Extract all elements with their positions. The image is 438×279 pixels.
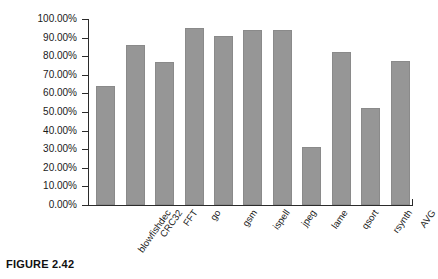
y-axis-tick-label: 40.00%	[7, 126, 77, 136]
y-axis-tick-label: 10.00%	[7, 181, 77, 191]
bar	[243, 30, 262, 205]
x-axis-tick-label: rsynth	[391, 208, 414, 235]
bar	[361, 108, 380, 205]
y-axis-tick-label: 0.00%	[7, 200, 77, 210]
x-axis-line	[88, 205, 413, 206]
bar	[185, 28, 204, 205]
bar	[96, 86, 115, 205]
bar	[273, 30, 292, 205]
y-axis-tick-label: 100.00%	[7, 14, 77, 24]
y-axis-tick-label: 20.00%	[7, 163, 77, 173]
y-axis-tick-label: 80.00%	[7, 51, 77, 61]
bar	[155, 62, 174, 205]
x-axis-tick-label: qsort	[360, 208, 380, 231]
bar	[214, 36, 233, 205]
x-axis-end-tick	[412, 199, 413, 206]
x-axis-tick-label: jpeg	[300, 208, 318, 228]
bar-chart: 0.00%10.00%20.00%30.00%40.00%50.00%60.00…	[0, 0, 429, 246]
x-axis-tick-label: lame	[330, 208, 350, 231]
bar	[126, 45, 145, 205]
x-axis-tick-label: go	[209, 208, 223, 222]
y-axis-tick-label: 70.00%	[7, 70, 77, 80]
x-axis-tick-label: ispell	[271, 208, 292, 231]
bar	[332, 52, 351, 205]
x-axis-tick-label: AVG	[418, 208, 437, 230]
figure-caption: FIGURE 2.42	[6, 258, 74, 270]
y-axis-tick-label: 50.00%	[7, 107, 77, 117]
x-axis-tick-label: gsm	[241, 208, 259, 228]
y-axis-tick-label: 60.00%	[7, 88, 77, 98]
plot-area	[88, 19, 412, 205]
x-axis-tick-label: FFT	[181, 208, 199, 228]
bar	[302, 147, 321, 205]
y-axis-tick-label: 90.00%	[7, 33, 77, 43]
bar	[391, 61, 410, 205]
y-axis-tick	[82, 205, 88, 206]
y-axis-tick-label: 30.00%	[7, 144, 77, 154]
